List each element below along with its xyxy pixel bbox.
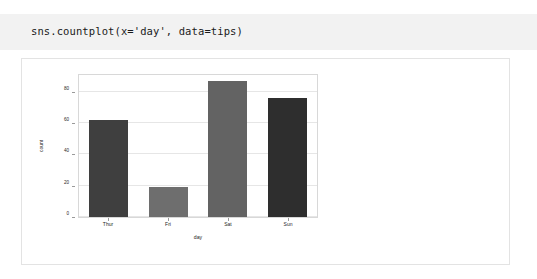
- plot-area: [78, 74, 318, 218]
- x-axis-label: day: [78, 234, 318, 240]
- code-text: sns.countplot(x='day', data=tips): [31, 25, 243, 38]
- bar-sat: [208, 81, 247, 217]
- bar-sun: [268, 98, 307, 217]
- x-axis-label-text: day: [194, 234, 202, 240]
- y-tick-label: 60: [64, 117, 69, 122]
- y-tick-label: 80: [64, 85, 69, 90]
- x-tick-mark: [168, 218, 169, 221]
- bar-slot: [198, 75, 258, 217]
- x-tick-label: Sat: [198, 221, 258, 227]
- bar-fri: [149, 187, 188, 217]
- x-tick-label: Thur: [78, 221, 138, 227]
- x-tick-mark: [228, 218, 229, 221]
- countplot-figure: count 020406080 ThurFriSatSun day: [31, 64, 331, 256]
- x-axis-ticks: ThurFriSatSun: [78, 221, 318, 227]
- y-tick-mark: [72, 123, 75, 124]
- bar-slot: [139, 75, 199, 217]
- y-tick-label: 0: [66, 211, 69, 216]
- y-axis-ticks: 020406080: [31, 74, 75, 218]
- bar-slot: [79, 75, 139, 217]
- x-tick-label: Fri: [138, 221, 198, 227]
- x-tick-mark: [108, 218, 109, 221]
- x-tick-mark: [288, 218, 289, 221]
- code-cell: sns.countplot(x='day', data=tips): [0, 14, 537, 50]
- bar-slot: [258, 75, 318, 217]
- y-tick-mark: [72, 154, 75, 155]
- output-card: count 020406080 ThurFriSatSun day: [21, 58, 510, 265]
- y-tick-mark: [72, 186, 75, 187]
- y-tick-label: 40: [64, 148, 69, 153]
- y-tick-mark: [72, 92, 75, 93]
- bar-group: [79, 75, 317, 217]
- y-tick-label: 20: [64, 179, 69, 184]
- y-tick-mark: [72, 217, 75, 218]
- bar-thur: [89, 120, 128, 217]
- x-tick-label: Sun: [258, 221, 318, 227]
